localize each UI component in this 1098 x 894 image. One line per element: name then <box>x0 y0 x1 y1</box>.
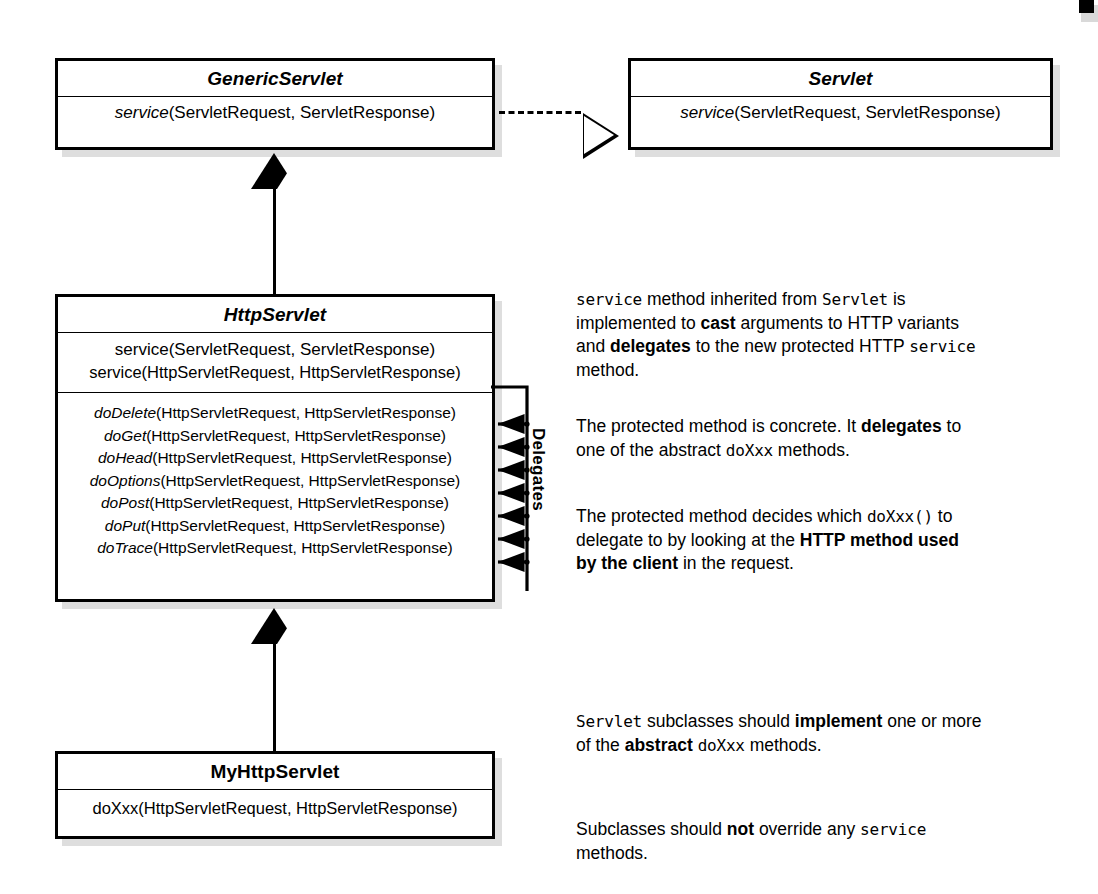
realization-hollow-triangle-icon <box>583 113 619 159</box>
generalization-line-myhttpservlet <box>273 643 276 753</box>
method-name: doHead <box>98 449 152 466</box>
note-protected-decides: The protected method decides which doXxx… <box>576 505 976 576</box>
code-run: doXxx() <box>867 507 933 526</box>
method-name: service <box>89 363 141 381</box>
method-row: doTrace(HttpServletRequest, HttpServletR… <box>66 537 484 559</box>
code-run: service <box>860 820 926 839</box>
emphasis-run: delegates <box>610 336 691 356</box>
method-row: doHead(HttpServletRequest, HttpServletRe… <box>66 447 484 469</box>
class-box-servlet: Servlet service(ServletRequest, ServletR… <box>628 58 1053 150</box>
code-run: Servlet <box>576 712 642 731</box>
class-methods-my-http-servlet: doXxx(HttpServletRequest, HttpServletRes… <box>58 790 492 827</box>
method-params: (HttpServletRequest, HttpServletResponse… <box>146 427 446 444</box>
method-row: doXxx(HttpServletRequest, HttpServletRes… <box>66 797 484 821</box>
method-row: doPost(HttpServletRequest, HttpServletRe… <box>66 492 484 514</box>
code-run: service <box>909 337 975 356</box>
method-name: doPut <box>105 517 146 534</box>
corner-registration-mark <box>1079 0 1094 13</box>
class-methods-generic-servlet: service(ServletRequest, ServletResponse) <box>58 97 492 130</box>
note-subclasses-not-override: Subclasses should not override any servi… <box>576 818 976 865</box>
class-methods-http-servlet-protected: doDelete(HttpServletRequest, HttpServlet… <box>58 393 492 567</box>
emphasis-run: implement <box>795 711 883 731</box>
generalization-hollow-triangle-icon-upper <box>251 153 297 189</box>
method-name: doDelete <box>94 404 156 421</box>
class-name-my-http-servlet: MyHttpServlet <box>58 754 492 789</box>
note-subclasses-implement: Servlet subclasses should implement one … <box>576 710 988 757</box>
realization-dashed-line <box>499 111 581 114</box>
class-methods-http-servlet-public: service(ServletRequest, ServletResponse)… <box>58 333 492 392</box>
emphasis-run: not <box>727 819 754 839</box>
method-params: (HttpServletRequest, HttpServletResponse… <box>160 472 460 489</box>
method-name: doTrace <box>97 539 153 556</box>
delegation-bracket <box>489 386 559 596</box>
class-box-my-http-servlet: MyHttpServlet doXxx(HttpServletRequest, … <box>55 751 495 839</box>
text-run: methods. <box>745 735 822 755</box>
method-name: service <box>115 340 169 359</box>
class-name-generic-servlet: GenericServlet <box>58 61 492 96</box>
method-row: doGet(HttpServletRequest, HttpServletRes… <box>66 425 484 447</box>
method-params: (HttpServletRequest, HttpServletResponse… <box>145 517 445 534</box>
method-row: doDelete(HttpServletRequest, HttpServlet… <box>66 402 484 424</box>
note-protected-concrete: The protected method is concrete. It del… <box>576 415 976 462</box>
text-run: The protected method decides which <box>576 506 867 526</box>
delegation-label: Delegates <box>528 428 548 511</box>
text-run: Subclasses should <box>576 819 727 839</box>
method-params: (HttpServletRequest, HttpServletResponse… <box>149 494 449 511</box>
emphasis-run: abstract <box>625 735 693 755</box>
generalization-line-httpservlet <box>273 188 276 296</box>
text-run: methods. <box>576 843 648 863</box>
method-params: (ServletRequest, ServletResponse) <box>169 340 435 359</box>
code-run: doXxx <box>726 441 773 460</box>
method-params: (HttpServletRequest, HttpServletResponse… <box>138 799 457 817</box>
text-run: in the request. <box>678 553 794 573</box>
class-methods-servlet: service(ServletRequest, ServletResponse) <box>631 97 1050 130</box>
method-row: service(ServletRequest, ServletResponse) <box>66 339 484 361</box>
class-name-http-servlet: HttpServlet <box>58 297 492 332</box>
method-row: doOptions(HttpServletRequest, HttpServle… <box>66 470 484 492</box>
text-run: override any <box>754 819 860 839</box>
method-row: service(ServletRequest, ServletResponse) <box>66 102 484 124</box>
text-run: to the new protected HTTP <box>691 336 910 356</box>
text-run: method. <box>576 360 639 380</box>
text-run: subclasses should <box>642 711 795 731</box>
method-name: service <box>115 103 169 122</box>
text-run: method inherited from <box>642 289 822 309</box>
emphasis-run: cast <box>701 313 736 333</box>
class-name-servlet: Servlet <box>631 61 1050 96</box>
code-run: doXxx <box>698 736 745 755</box>
class-box-http-servlet: HttpServlet service(ServletRequest, Serv… <box>55 294 495 602</box>
text-run: The protected method is concrete. It <box>576 416 861 436</box>
code-run: service <box>576 290 642 309</box>
method-params: (ServletRequest, ServletResponse) <box>734 103 1000 122</box>
method-name: doPost <box>101 494 149 511</box>
note-service-cast: service method inherited from Servlet is… <box>576 288 976 383</box>
emphasis-run: delegates <box>861 416 942 436</box>
method-row: doPut(HttpServletRequest, HttpServletRes… <box>66 515 484 537</box>
method-params: (HttpServletRequest, HttpServletResponse… <box>152 449 452 466</box>
method-params: (ServletRequest, ServletResponse) <box>169 103 435 122</box>
method-name: doXxx <box>93 799 139 817</box>
code-run: Servlet <box>822 290 888 309</box>
method-params: (HttpServletRequest, HttpServletResponse… <box>153 539 453 556</box>
method-name: doOptions <box>90 472 161 489</box>
method-params: (HttpServletRequest, HttpServletResponse… <box>142 363 461 381</box>
class-box-generic-servlet: GenericServlet service(ServletRequest, S… <box>55 58 495 150</box>
method-row: service(HttpServletRequest, HttpServletR… <box>66 361 484 385</box>
generalization-hollow-triangle-icon-lower <box>251 608 297 644</box>
method-name: service <box>680 103 734 122</box>
method-params: (HttpServletRequest, HttpServletResponse… <box>156 404 456 421</box>
text-run: methods. <box>773 440 850 460</box>
method-row: service(ServletRequest, ServletResponse) <box>639 102 1042 124</box>
method-name: doGet <box>104 427 146 444</box>
